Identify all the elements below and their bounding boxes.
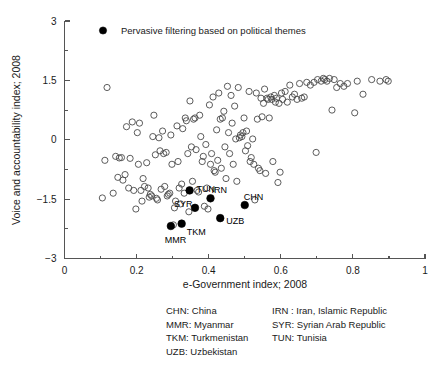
y-tick-label: 1.5	[43, 75, 57, 86]
data-point-highlighted-tkm	[178, 220, 186, 228]
data-point-highlighted-mmr	[167, 222, 175, 230]
data-point-highlighted-uzb	[216, 214, 224, 222]
y-tick-label: 0	[51, 134, 57, 145]
y-tick-label: −1.5	[37, 194, 57, 205]
x-tick-label: 0.2	[130, 265, 144, 276]
chart-svg: 00.20.40.60.81 31.50−1.5−3 e-Government …	[0, 0, 440, 369]
data-point-label-irn: IRN	[212, 185, 228, 195]
data-point-label-mmr: MMR	[165, 235, 187, 245]
legend-marker-filled-circle-icon	[99, 27, 106, 34]
country-note-line: IRN : Iran, Islamic Republic	[272, 305, 387, 316]
chart-legend: Pervasive filtering based on political t…	[99, 25, 306, 36]
y-tick-label: −3	[45, 253, 57, 264]
x-tick-label: 0	[62, 265, 68, 276]
country-note-line: TUN: Tunisia	[272, 332, 328, 343]
data-point-label-chn: CHN	[244, 192, 264, 202]
data-point-highlighted-irn	[207, 195, 215, 203]
data-point-label-tkm: TKM	[187, 227, 206, 237]
x-tick-label: 1	[422, 265, 428, 276]
x-tick-label: 0.4	[202, 265, 216, 276]
data-point-label-syr: SYR	[174, 199, 193, 209]
scatter-chart-figure: 00.20.40.60.81 31.50−1.5−3 e-Government …	[0, 0, 440, 369]
x-tick-label: 0.6	[274, 265, 288, 276]
data-point-highlighted-chn	[241, 201, 249, 209]
x-axis-title: e-Government index; 2008	[183, 278, 307, 290]
data-point-label-uzb: UZB	[226, 216, 244, 226]
country-note-line: UZB: Uzbekistan	[166, 346, 237, 357]
country-note-line: SYR: Syrian Arab Republic	[272, 319, 386, 330]
data-point-highlighted-tun	[186, 187, 194, 195]
legend-entry-label: Pervasive filtering based on political t…	[121, 25, 306, 36]
country-note-line: MMR: Myanmar	[166, 319, 234, 330]
x-tick-label: 0.8	[346, 265, 360, 276]
y-axis-title: Voice and accountability index; 2008	[10, 55, 22, 225]
country-note-line: TKM: Turkmenistan	[166, 332, 248, 343]
y-tick-label: 3	[51, 16, 57, 27]
country-note-line: CHN: China	[166, 305, 217, 316]
